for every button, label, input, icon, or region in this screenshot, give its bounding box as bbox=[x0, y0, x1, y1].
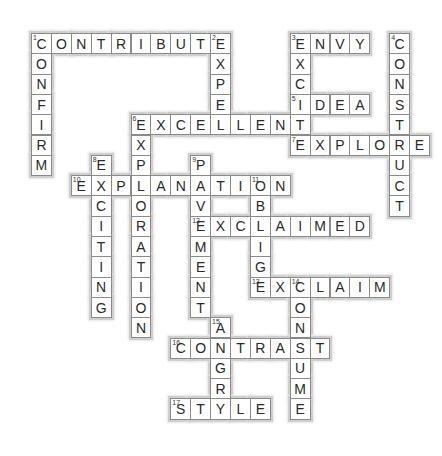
crossword-cell[interactable]: O bbox=[31, 53, 52, 74]
crossword-cell[interactable]: I bbox=[91, 256, 112, 277]
crossword-cell[interactable]: I bbox=[290, 216, 311, 237]
crossword-cell[interactable]: R bbox=[210, 378, 231, 399]
crossword-cell[interactable]: X bbox=[290, 53, 311, 74]
crossword-cell[interactable]: A bbox=[270, 338, 291, 359]
crossword-cell[interactable]: R bbox=[31, 135, 52, 156]
crossword-cell[interactable]: E bbox=[330, 216, 351, 237]
crossword-cell[interactable]: C bbox=[290, 74, 311, 95]
crossword-cell[interactable]: E bbox=[190, 114, 211, 135]
crossword-cell[interactable]: Y bbox=[349, 33, 370, 54]
crossword-cell[interactable]: L bbox=[230, 398, 251, 419]
crossword-cell[interactable]: R bbox=[131, 216, 152, 237]
crossword-cell[interactable]: E8 bbox=[91, 155, 112, 176]
crossword-cell[interactable]: X bbox=[91, 175, 112, 196]
crossword-cell[interactable]: T bbox=[290, 114, 311, 135]
crossword-cell[interactable]: I bbox=[131, 277, 152, 298]
crossword-cell[interactable]: N bbox=[290, 317, 311, 338]
crossword-cell[interactable]: O bbox=[290, 297, 311, 318]
crossword-cell[interactable]: N bbox=[131, 317, 152, 338]
crossword-cell[interactable]: T bbox=[389, 195, 410, 216]
crossword-cell[interactable]: E3 bbox=[290, 33, 311, 54]
crossword-cell[interactable]: I bbox=[349, 277, 370, 298]
crossword-cell[interactable]: M bbox=[310, 216, 331, 237]
crossword-cell[interactable]: E13 bbox=[250, 277, 271, 298]
crossword-cell[interactable]: L bbox=[310, 277, 331, 298]
crossword-cell[interactable]: I bbox=[230, 175, 251, 196]
crossword-cell[interactable]: T bbox=[91, 236, 112, 257]
crossword-cell[interactable]: O bbox=[389, 53, 410, 74]
crossword-cell[interactable]: E bbox=[290, 398, 311, 419]
crossword-cell[interactable]: C4 bbox=[389, 33, 410, 54]
crossword-cell[interactable]: X bbox=[131, 135, 152, 156]
crossword-cell[interactable]: O bbox=[369, 135, 390, 156]
crossword-cell[interactable]: T bbox=[190, 398, 211, 419]
crossword-cell[interactable]: E bbox=[330, 94, 351, 115]
crossword-cell[interactable]: N bbox=[270, 114, 291, 135]
crossword-cell[interactable]: T bbox=[230, 338, 251, 359]
crossword-cell[interactable]: I bbox=[31, 114, 52, 135]
crossword-cell[interactable]: M bbox=[369, 277, 390, 298]
crossword-cell[interactable]: L bbox=[349, 135, 370, 156]
crossword-cell[interactable]: U bbox=[389, 155, 410, 176]
crossword-cell[interactable]: P bbox=[330, 135, 351, 156]
crossword-cell[interactable]: G bbox=[210, 358, 231, 379]
crossword-cell[interactable]: F bbox=[31, 94, 52, 115]
crossword-cell[interactable]: U bbox=[170, 33, 191, 54]
crossword-cell[interactable]: E bbox=[250, 398, 271, 419]
crossword-cell[interactable]: S17 bbox=[170, 398, 191, 419]
crossword-cell[interactable]: G bbox=[91, 297, 112, 318]
crossword-cell[interactable]: L bbox=[131, 175, 152, 196]
crossword-cell[interactable]: P bbox=[111, 175, 132, 196]
crossword-cell[interactable]: N bbox=[310, 33, 331, 54]
crossword-cell[interactable]: E12 bbox=[190, 216, 211, 237]
crossword-cell[interactable]: T bbox=[91, 33, 112, 54]
crossword-cell[interactable]: S bbox=[389, 94, 410, 115]
crossword-cell[interactable]: M bbox=[190, 236, 211, 257]
crossword-cell[interactable]: N bbox=[210, 338, 231, 359]
crossword-cell[interactable]: C bbox=[389, 175, 410, 196]
crossword-cell[interactable]: E bbox=[250, 114, 271, 135]
crossword-cell[interactable]: P bbox=[131, 155, 152, 176]
crossword-cell[interactable]: X bbox=[270, 277, 291, 298]
crossword-cell[interactable]: M bbox=[290, 378, 311, 399]
crossword-cell[interactable]: B bbox=[250, 195, 271, 216]
crossword-cell[interactable]: T bbox=[190, 297, 211, 318]
crossword-cell[interactable]: E bbox=[210, 94, 231, 115]
crossword-cell[interactable]: X bbox=[210, 216, 231, 237]
crossword-cell[interactable]: D bbox=[349, 216, 370, 237]
crossword-cell[interactable]: N bbox=[71, 33, 92, 54]
crossword-cell[interactable]: I5 bbox=[290, 94, 311, 115]
crossword-cell[interactable]: X bbox=[150, 114, 171, 135]
crossword-cell[interactable]: B bbox=[150, 33, 171, 54]
crossword-cell[interactable]: C bbox=[170, 114, 191, 135]
crossword-cell[interactable]: O bbox=[131, 195, 152, 216]
crossword-cell[interactable]: R bbox=[111, 33, 132, 54]
crossword-cell[interactable]: V bbox=[330, 33, 351, 54]
crossword-cell[interactable]: T bbox=[131, 256, 152, 277]
crossword-cell[interactable]: E7 bbox=[290, 135, 311, 156]
crossword-cell[interactable]: I bbox=[91, 216, 112, 237]
crossword-cell[interactable]: I bbox=[131, 33, 152, 54]
crossword-cell[interactable]: C14 bbox=[290, 277, 311, 298]
crossword-cell[interactable]: N bbox=[190, 277, 211, 298]
crossword-cell[interactable]: C16 bbox=[170, 338, 191, 359]
crossword-cell[interactable]: L bbox=[230, 114, 251, 135]
crossword-cell[interactable]: N bbox=[170, 175, 191, 196]
crossword-cell[interactable]: C1 bbox=[31, 33, 52, 54]
crossword-cell[interactable]: T bbox=[310, 338, 331, 359]
crossword-cell[interactable]: T bbox=[190, 33, 211, 54]
crossword-cell[interactable]: R bbox=[389, 135, 410, 156]
crossword-cell[interactable]: A bbox=[270, 216, 291, 237]
crossword-cell[interactable]: E2 bbox=[210, 33, 231, 54]
crossword-cell[interactable]: N bbox=[270, 175, 291, 196]
crossword-cell[interactable]: E bbox=[190, 256, 211, 277]
crossword-cell[interactable]: A15 bbox=[210, 317, 231, 338]
crossword-cell[interactable]: S bbox=[290, 338, 311, 359]
crossword-cell[interactable]: M bbox=[31, 155, 52, 176]
crossword-cell[interactable]: A bbox=[190, 175, 211, 196]
crossword-cell[interactable]: N bbox=[91, 277, 112, 298]
crossword-cell[interactable]: O11 bbox=[250, 175, 271, 196]
crossword-cell[interactable]: O bbox=[190, 338, 211, 359]
crossword-cell[interactable]: T bbox=[210, 175, 231, 196]
crossword-cell[interactable]: O bbox=[131, 297, 152, 318]
